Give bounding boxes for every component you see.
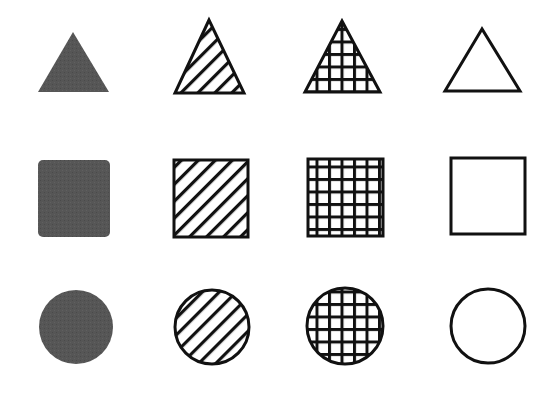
triangle-hatch-shape	[175, 20, 244, 93]
shapes-layer	[38, 20, 525, 364]
square-hatch-shape	[174, 160, 248, 237]
triangle-grid-shape	[305, 21, 380, 92]
triangle-none-shape	[445, 29, 520, 91]
square-solid-shape	[38, 160, 110, 237]
circle-none-shape	[451, 289, 525, 363]
triangle-solid-shape	[38, 32, 109, 92]
square-none-shape	[451, 158, 525, 234]
circle-grid-shape	[307, 288, 383, 364]
square-grid-shape	[308, 159, 383, 236]
circle-hatch-shape	[175, 290, 249, 364]
circle-solid-shape	[39, 290, 113, 364]
shape-pattern-diagram	[0, 0, 559, 394]
